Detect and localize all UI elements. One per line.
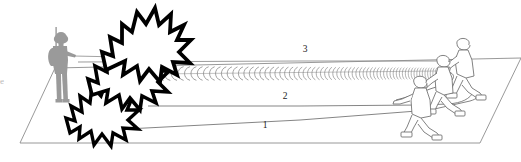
callout-label-2: 2 (283, 91, 288, 101)
demolition-line-diagram: 1 2 3 e (0, 0, 521, 162)
callout-label-3: 3 (303, 44, 308, 54)
callout-label-1: 1 (263, 120, 268, 130)
figure-container: 1 2 3 e (0, 0, 521, 162)
edge-text-fragment: e (0, 76, 4, 86)
